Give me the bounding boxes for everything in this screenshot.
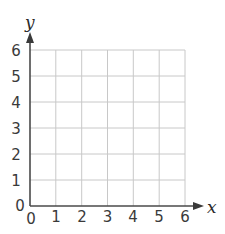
y-tick-3: 3	[11, 120, 21, 138]
y-axis-arrow-icon	[26, 32, 34, 43]
y-tick-6: 6	[11, 42, 21, 60]
grid-lines	[30, 50, 185, 206]
y-tick-2: 2	[11, 146, 21, 164]
x-tick-1: 1	[51, 208, 61, 226]
x-tick-3: 3	[103, 208, 113, 226]
y-tick-4: 4	[11, 94, 21, 112]
y-tick-labels: 6 5 4 3 2 1 0	[11, 42, 25, 215]
x-tick-2: 2	[77, 208, 87, 226]
x-axis-label: x	[207, 197, 217, 217]
x-tick-6: 6	[180, 208, 190, 226]
x-tick-4: 4	[128, 208, 138, 226]
x-tick-labels: 0 1 2 3 4 5 6	[26, 208, 190, 228]
x-axis-arrow-icon	[193, 202, 204, 210]
coordinate-grid: y x 6 5 4 3 2 1 0 0 1 2 3 4 5 6	[0, 0, 225, 234]
y-tick-5: 5	[11, 68, 21, 86]
x-tick-0: 0	[26, 210, 36, 228]
y-axis-label: y	[24, 12, 35, 32]
y-tick-1: 1	[11, 172, 21, 190]
x-tick-5: 5	[154, 208, 164, 226]
y-tick-0: 0	[15, 197, 25, 215]
